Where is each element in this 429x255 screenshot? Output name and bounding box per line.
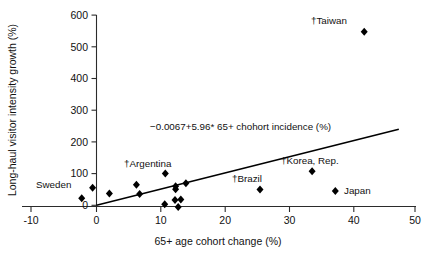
- point-label-japan: Japan: [344, 185, 371, 196]
- x-tick-label-0: 0: [94, 214, 100, 226]
- point-label-brazil: †Brazil: [232, 173, 262, 184]
- x-axis-title: 65+ age cohort change (%): [155, 235, 282, 247]
- point-label-argentina: †Argentina: [124, 158, 172, 169]
- x-tick-label-20: 20: [219, 214, 231, 226]
- point-label-korea-rep: †Korea, Rep.: [281, 155, 339, 166]
- regression-equation-label: −0.0067+5.96* 65+ chohort incidence (%): [150, 121, 331, 132]
- x-tick-label-40: 40: [348, 214, 360, 226]
- scatter-chart-figure: 0 100 200 300 400 500 600 -10 0 10 20 30…: [0, 0, 429, 255]
- point-label-sweden: Sweden: [36, 179, 71, 190]
- y-tick-label-300: 300: [70, 104, 88, 116]
- x-tick-label-50: 50: [409, 214, 421, 226]
- x-tick-label-neg10: -10: [23, 214, 38, 226]
- y-tick-label-0: 0: [82, 199, 88, 211]
- y-tick-label-100: 100: [70, 167, 88, 179]
- chart-canvas: 0 100 200 300 400 500 600 -10 0 10 20 30…: [0, 0, 429, 255]
- y-tick-label-400: 400: [70, 72, 88, 84]
- x-tick-label-10: 10: [155, 214, 167, 226]
- point-label-taiwan: †Taiwan: [311, 15, 347, 26]
- x-tick-label-30: 30: [284, 214, 296, 226]
- y-axis-title: Long-haul visitor intensity growth (%): [6, 24, 18, 196]
- y-tick-label-500: 500: [70, 41, 88, 53]
- y-tick-label-600: 600: [70, 9, 88, 21]
- y-tick-label-200: 200: [70, 136, 88, 148]
